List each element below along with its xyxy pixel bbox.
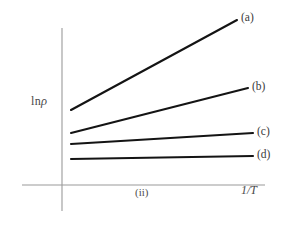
curve-line-d xyxy=(71,156,253,159)
curve-label-b: (b) xyxy=(252,81,265,93)
curve-label-c: (c) xyxy=(257,126,270,138)
curve-label-a: (a) xyxy=(241,12,254,24)
curve-line-c xyxy=(71,133,253,144)
panel-label: (ii) xyxy=(135,187,148,198)
y-axis-label: lnρ xyxy=(31,95,47,108)
rho-symbol: ρ xyxy=(41,94,47,108)
resistivity-vs-inverse-temperature-figure: lnρ 1/T (ii) (a) (b) (c) (d) xyxy=(0,0,288,225)
y-axis-label-prefix: ln xyxy=(31,94,41,108)
x-axis-label: 1/T xyxy=(241,184,257,196)
curve-label-d: (d) xyxy=(257,149,270,161)
